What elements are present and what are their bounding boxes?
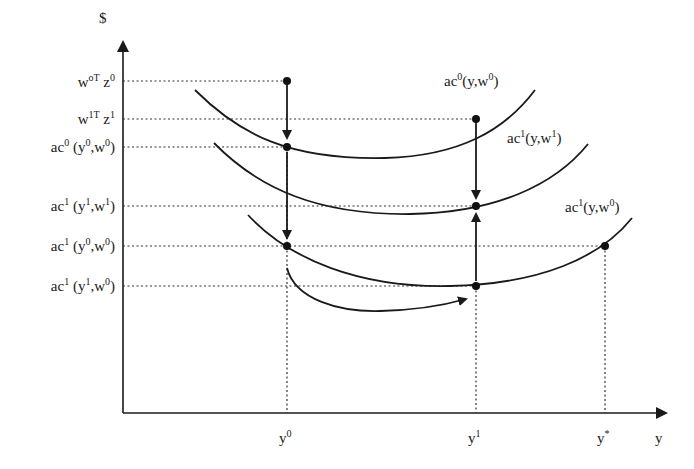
y-tick-label: ac1 (y0,w0) <box>51 236 115 255</box>
point-w0z0 <box>283 77 291 85</box>
curve-label-ac0-y-w0: ac0(y,w0) <box>444 71 498 90</box>
point-ac1-y1-w1 <box>472 202 480 210</box>
y-tick-label: ac0 (y0,w0) <box>51 137 115 156</box>
x-tick-label: y* <box>597 428 610 446</box>
y-axis-arrowhead-icon <box>117 40 129 52</box>
x-tick-label: y0 <box>279 428 292 446</box>
y-tick-label: ac1 (y1,w0) <box>51 276 115 295</box>
curve-ac1-y-w0 <box>248 215 632 286</box>
x-axis-label: y <box>655 430 663 446</box>
curve-ac0-y-w0 <box>195 90 535 158</box>
point-ac1-y0-w0 <box>283 242 291 250</box>
curve-ac1-y-w1 <box>214 143 588 214</box>
curved-arrow <box>287 268 466 311</box>
x-axis-arrowhead-icon <box>656 407 668 419</box>
curve-label-ac1-y-w1: ac1(y,w1) <box>507 128 561 147</box>
cost-curves-diagram: $ y woT z0 w1T z1 ac0 (y0,w0) ac1 (y1,w1… <box>0 0 694 469</box>
y-tick-label: w1T z1 <box>78 109 115 127</box>
point-ac1-y1-w0 <box>472 282 480 290</box>
point-ac1-ystar-w0 <box>601 242 609 250</box>
y-tick-label: ac1 (y1,w1) <box>51 196 115 215</box>
y-tick-label: woT z0 <box>78 72 115 90</box>
point-w1z1 <box>472 115 480 123</box>
y-axis-label: $ <box>99 10 107 26</box>
x-tick-label: y1 <box>468 428 481 446</box>
curve-label-ac1-y-w0: ac1(y,w0) <box>565 197 619 216</box>
point-ac0-y0-w0 <box>283 143 291 151</box>
